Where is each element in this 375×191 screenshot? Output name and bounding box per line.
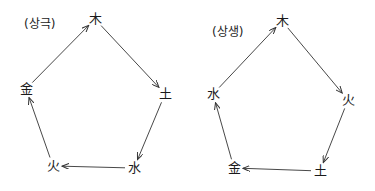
arrow-edge xyxy=(29,98,50,158)
arrow-edge xyxy=(288,28,342,93)
arrow-edge xyxy=(62,166,125,168)
node-metal: 金 xyxy=(18,82,34,96)
sanggeuk-title: (상극) xyxy=(24,14,55,31)
node-earth: 土 xyxy=(157,87,173,101)
arrow-edge xyxy=(243,168,311,170)
arrow-edge xyxy=(138,102,162,159)
node-wood: 木 xyxy=(274,14,290,28)
arrow-edge xyxy=(32,25,88,82)
arrow-edge xyxy=(101,26,159,88)
node-fire: 火 xyxy=(340,93,356,107)
sangsaeng-title: (상생) xyxy=(212,22,243,39)
node-metal: 金 xyxy=(226,161,242,175)
node-earth: 土 xyxy=(312,164,328,178)
node-water: 水 xyxy=(126,161,142,175)
node-fire: 火 xyxy=(45,159,61,173)
node-water: 水 xyxy=(205,87,221,101)
node-wood: 木 xyxy=(87,12,103,26)
arrow-edge xyxy=(323,108,344,162)
arrow-edge xyxy=(216,103,232,160)
